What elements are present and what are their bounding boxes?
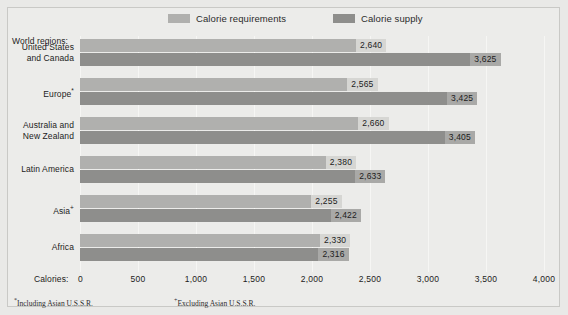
legend-item-supply[interactable]: Calorie supply <box>333 13 423 24</box>
x-tick-label: 0 <box>78 274 83 284</box>
legend-label-requirements: Calorie requirements <box>196 13 286 24</box>
chart-page: Calorie requirementsCalorie supply World… <box>0 0 568 315</box>
bar-req[interactable] <box>80 117 389 130</box>
x-tick-label: 500 <box>131 274 146 284</box>
gridline <box>544 36 545 272</box>
x-tick-label: 3,500 <box>475 274 497 284</box>
footnote-row: *Including Asian U.S.S.R.+Excluding Asia… <box>14 297 554 311</box>
legend-swatch-supply <box>333 14 355 23</box>
bar-value-label: 3,425 <box>447 92 477 105</box>
bar-req[interactable] <box>80 78 378 91</box>
region-label: United Statesand Canada <box>2 42 74 63</box>
bar-req[interactable] <box>80 39 386 52</box>
bar-req[interactable] <box>80 234 350 247</box>
legend-item-requirements[interactable]: Calorie requirements <box>168 13 286 24</box>
footnote: *Including Asian U.S.S.R. <box>14 297 93 308</box>
bar-group: 2,3302,316 <box>80 234 544 263</box>
x-tick-label: 2,500 <box>359 274 381 284</box>
bar-sup[interactable] <box>80 53 501 66</box>
region-label: Europe* <box>2 86 74 99</box>
bar-group: 2,6603,405 <box>80 117 544 146</box>
bar-value-label: 3,405 <box>445 131 475 144</box>
bar-value-label: 2,380 <box>326 156 356 169</box>
bar-value-label: 2,255 <box>311 195 341 208</box>
bar-group: 2,3802,633 <box>80 156 544 185</box>
x-axis-ticks: 05001,0001,5002,0002,5003,0003,5004,000 <box>80 274 544 288</box>
x-tick-label: 2,000 <box>301 274 323 284</box>
x-tick-label: 1,000 <box>185 274 207 284</box>
region-label: Latin America <box>2 164 74 175</box>
bar-sup[interactable] <box>80 170 385 183</box>
chart-legend: Calorie requirementsCalorie supply <box>0 13 568 29</box>
plot-area: 2,6403,6252,5653,4252,6603,4052,3802,633… <box>80 36 544 272</box>
x-tick-label: 1,500 <box>243 274 265 284</box>
x-tick-label: 4,000 <box>533 274 555 284</box>
region-label-column: United Statesand CanadaEurope*Australia … <box>0 36 74 272</box>
bar-value-label: 2,330 <box>320 234 350 247</box>
bar-group: 2,5653,425 <box>80 78 544 107</box>
bar-value-label: 2,640 <box>356 39 386 52</box>
bar-group: 2,6403,625 <box>80 39 544 68</box>
bar-req[interactable] <box>80 156 356 169</box>
bar-value-label: 2,316 <box>318 248 348 261</box>
bar-value-label: 2,422 <box>331 209 361 222</box>
x-axis-title: Calories: <box>34 274 68 284</box>
region-label: Asia+ <box>2 203 74 216</box>
footnote: +Excluding Asian U.S.S.R. <box>174 297 255 308</box>
bar-value-label: 2,660 <box>358 117 388 130</box>
bar-sup[interactable] <box>80 92 477 105</box>
bar-value-label: 3,625 <box>470 53 500 66</box>
region-label: Africa <box>2 242 74 253</box>
bar-value-label: 2,633 <box>355 170 385 183</box>
x-tick-label: 3,000 <box>417 274 439 284</box>
bar-req[interactable] <box>80 195 342 208</box>
bar-sup[interactable] <box>80 248 349 261</box>
bar-value-label: 2,565 <box>347 78 377 91</box>
region-label: Australia andNew Zealand <box>2 120 74 141</box>
legend-swatch-requirements <box>168 14 190 23</box>
bar-sup[interactable] <box>80 131 475 144</box>
bar-group: 2,2552,422 <box>80 195 544 224</box>
bar-sup[interactable] <box>80 209 361 222</box>
legend-label-supply: Calorie supply <box>361 13 423 24</box>
